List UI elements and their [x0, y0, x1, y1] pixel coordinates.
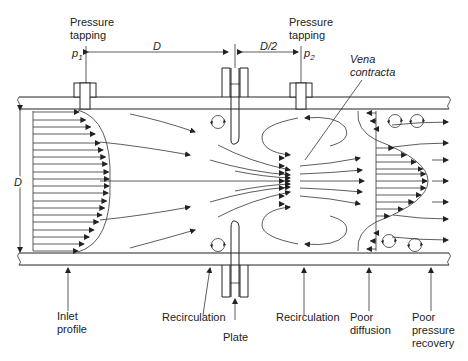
eddy-arrowhead [223, 119, 226, 123]
plate-label: Plate [223, 331, 248, 343]
streamline-arrow [393, 143, 448, 147]
streamline-arrow [130, 114, 195, 132]
streamline-arrow [100, 142, 190, 155]
recirculation-loop [262, 207, 298, 244]
eddy-arrowhead [407, 244, 410, 248]
poor-diffusion-label: Poor diffusion [350, 311, 391, 336]
pressure-tapping-2-label: Pressure tapping [289, 16, 336, 41]
poor-pressure-recovery-label: Poor pressure recovery [412, 311, 458, 349]
eddy-arrowhead [394, 238, 397, 242]
eddy-arrowhead [210, 244, 213, 248]
bottom-leaders [68, 268, 431, 320]
recirculation-loop [262, 118, 298, 155]
eddy-circle [411, 115, 424, 128]
recirculation-eddies [210, 115, 425, 252]
streamline-arrow [300, 170, 362, 174]
streamline-arrow [300, 158, 360, 166]
eddy-circle [389, 115, 402, 128]
recirculation-loop [305, 117, 347, 146]
recirculation-1-label: Recirculation [162, 311, 226, 323]
orifice-plate [222, 68, 248, 297]
dimension-d-half-label: D/2 [260, 40, 277, 52]
eddy-circle [409, 239, 422, 252]
eddy-circle [212, 239, 225, 252]
dimension-d-side-label: D [14, 176, 22, 188]
p1-label: p1 [71, 47, 83, 62]
eddy-arrowhead [420, 242, 423, 246]
dimension-d-label: D [153, 40, 161, 52]
p2-label: p2 [303, 47, 315, 62]
streamline-arrow [393, 215, 448, 219]
dimension-lines [20, 44, 298, 252]
eddy-arrowhead [422, 118, 425, 122]
recirculation-loop [305, 216, 347, 245]
vena-contracta-label: Vena contracta [350, 53, 395, 78]
eddy-arrowhead [210, 121, 213, 125]
inlet-profile-label: Inlet profile [57, 310, 87, 335]
streamline-arrow [100, 207, 190, 220]
eddy-arrowhead [387, 120, 390, 124]
inlet-profile [33, 110, 110, 252]
streamline-arrow [300, 188, 362, 192]
downstream-profile [358, 111, 428, 251]
eddy-arrowhead [223, 242, 226, 246]
recirculation-2-label: Recirculation [276, 311, 340, 323]
orifice-plate-diagram: Pressure tapping Pressure tapping p1 p2 … [0, 0, 468, 361]
streamline-arrow [218, 145, 290, 170]
eddy-arrowhead [400, 118, 403, 122]
streamline-arrow [218, 192, 290, 217]
streamline-arrow [130, 230, 195, 248]
vena-contracta-leader [305, 80, 362, 160]
streamline-arrow [300, 196, 360, 204]
eddy-circle [212, 116, 225, 129]
streamline-arrow [392, 237, 448, 240]
pressure-tapping-1-label: Pressure tapping [70, 16, 117, 41]
eddy-arrowhead [381, 240, 384, 244]
eddy-circle [383, 235, 396, 248]
